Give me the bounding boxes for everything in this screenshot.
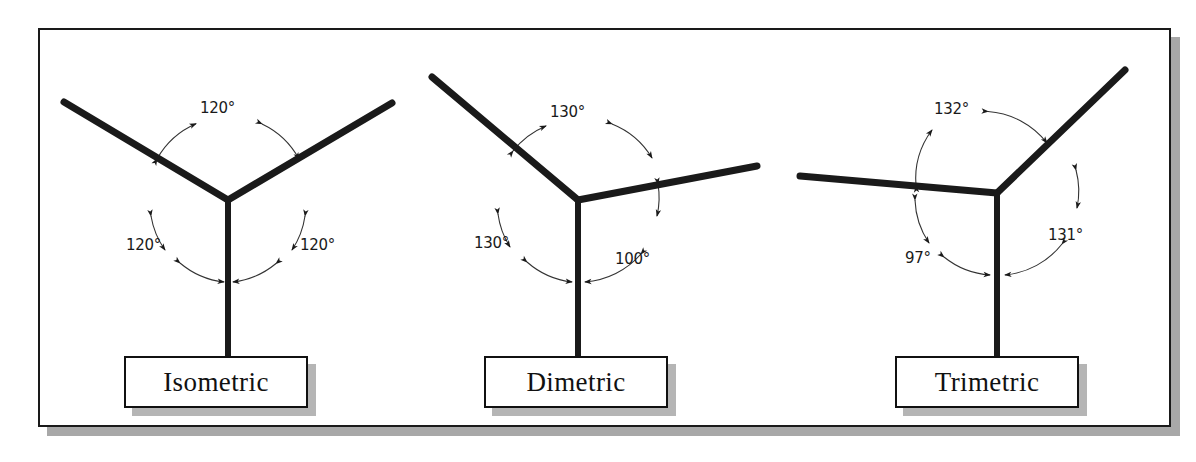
di-left-axis [432,77,578,200]
dimetric-right-angle-label: 100° [615,250,650,268]
isometric-label-text: Isometric [163,369,269,396]
tri-arc-right-lower [1005,244,1062,275]
tri-arc-left-upper [915,200,929,243]
trimetric-label-box[interactable]: Trimetric [895,356,1079,408]
isometric-left-angle-label: 120° [126,236,161,254]
tri-arc-left-lower [944,257,990,275]
dimetric-left-angle-label: 130° [474,234,509,252]
di-arc-left-lower [527,262,572,282]
dimetric-label-text: Dimetric [526,369,625,396]
di-arc-right-upper [657,184,659,216]
tri-arc-top-right [988,112,1047,144]
dimetric-figure [432,77,757,357]
trimetric-top-angle-label: 132° [934,100,969,118]
iso-arc-right-lower [233,264,276,283]
tri-right-axis [997,70,1125,193]
di-right-axis [578,166,757,200]
trimetric-left-angle-label: 97° [905,249,931,267]
trimetric-right-angle-label: 131° [1048,226,1083,244]
di-arc-top-right [612,124,652,158]
iso-right-axis [228,103,392,200]
isometric-figure [64,102,392,357]
trimetric-label-text: Trimetric [935,369,1040,396]
tri-arc-top-left [916,130,932,186]
dimetric-top-angle-label: 130° [550,103,585,121]
iso-arc-top-right [262,124,299,159]
iso-arc-left-lower [180,263,224,282]
isometric-right-angle-label: 120° [300,236,335,254]
diagram-page: 120° 120° 120° 130° 130° 100° 132° 97° 1… [0,0,1196,462]
tri-left-axis [800,176,997,193]
tri-arc-right-upper [1076,170,1079,208]
isometric-label-box[interactable]: Isometric [124,356,308,408]
isometric-top-angle-label: 120° [200,99,235,117]
iso-arc-top-left [157,124,196,159]
dimetric-label-box[interactable]: Dimetric [484,356,668,408]
